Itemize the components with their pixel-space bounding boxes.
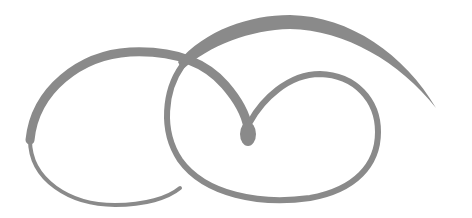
left-loop-lower-arc [30,140,180,205]
left-loop-top-arc [30,52,248,140]
right-loop-arc [167,66,378,200]
flourish-ornament [0,0,472,218]
teardrop-ornament [240,122,256,146]
top-sweep-arc [178,15,436,108]
flourish-graphic [0,0,472,218]
